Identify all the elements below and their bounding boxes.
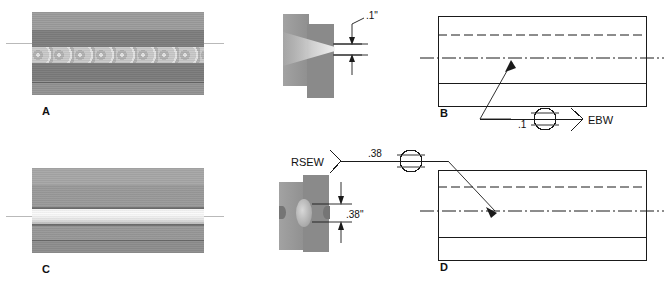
panel-label-d: D	[440, 262, 448, 273]
panel-d-size-text: .38	[368, 148, 382, 159]
weld-comparison-figure: A .1"	[0, 0, 664, 286]
panel-d-process-text: RSEW	[291, 156, 325, 168]
panel-d-drawing: .38 RSEW	[0, 0, 664, 286]
